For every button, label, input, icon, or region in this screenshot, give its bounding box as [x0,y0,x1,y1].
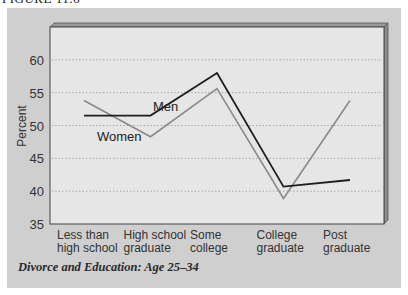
y-tick-labels: 354045505560 [30,53,44,232]
y-tick-label: 60 [30,53,44,68]
x-category-label: Collegegraduate [257,228,305,255]
series-label-men: Men [153,99,178,114]
series-label-women: Women [97,129,142,144]
y-tick-label: 45 [30,151,44,166]
figure-caption: Divorce and Education: Age 25–34 [18,260,199,275]
y-tick-label: 40 [30,184,44,199]
plot-bevel-top [50,23,388,27]
y-tick-label: 50 [30,119,44,134]
plot-bevel-right [384,23,388,224]
x-category-label: Postgraduate [323,228,371,255]
line-chart: 354045505560 Less thanhigh schoolHigh sc… [0,0,408,295]
y-axis-label: Percent [15,105,29,147]
y-tick-label: 55 [30,86,44,101]
x-category-label: Less thanhigh school [57,228,118,255]
x-category-label: Somecollege [190,228,228,255]
y-tick-label: 35 [30,217,44,232]
x-category-label: High schoolgraduate [124,228,187,255]
x-category-labels: Less thanhigh schoolHigh schoolgraduateS… [57,228,371,255]
